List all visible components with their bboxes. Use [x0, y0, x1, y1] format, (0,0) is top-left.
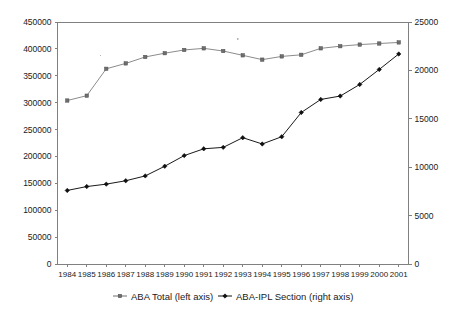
x-tick-label: 1987	[117, 270, 135, 279]
series-aba-ipl-markers	[65, 52, 401, 193]
right-tick-label: 10000	[415, 162, 439, 172]
data-point-marker	[104, 182, 108, 186]
plot-frame	[58, 22, 409, 265]
left-tick-label: 450000	[23, 17, 52, 27]
data-point-marker	[182, 153, 186, 157]
data-point-marker	[124, 62, 127, 65]
right-tick-label: 20000	[415, 65, 439, 75]
data-point-marker	[183, 48, 186, 51]
x-axis-ticks: 1984198519861987198819891990199119921993…	[58, 264, 408, 279]
data-point-marker	[163, 51, 166, 54]
data-point-marker	[260, 142, 264, 146]
data-point-marker	[105, 67, 108, 70]
data-point-marker	[378, 42, 381, 45]
series-aba-ipl-line	[67, 54, 399, 190]
data-point-marker	[261, 58, 264, 61]
x-tick-label: 1994	[253, 270, 271, 279]
chart-legend: ABA Total (left axis)ABA-IPL Section (ri…	[113, 291, 353, 302]
left-axis-ticks: 0500001000001500002000002500003000003500…	[23, 17, 57, 269]
data-point-marker	[222, 49, 225, 52]
legend-item-aba-total[interactable]: ABA Total (left axis)	[113, 291, 213, 302]
legend-marker	[118, 294, 121, 297]
x-tick-label: 1996	[292, 270, 310, 279]
legend-marker	[223, 294, 227, 298]
right-tick-label: 25000	[415, 17, 439, 27]
scan-artifacts	[100, 38, 239, 56]
data-point-marker	[85, 94, 88, 97]
data-point-marker	[241, 54, 244, 57]
data-point-marker	[66, 99, 69, 102]
series-polyline	[67, 42, 399, 100]
x-tick-label: 1995	[273, 270, 291, 279]
data-point-marker	[338, 94, 342, 98]
x-tick-label: 1993	[234, 270, 252, 279]
left-tick-label: 350000	[23, 71, 52, 81]
x-tick-label: 1998	[331, 270, 349, 279]
data-point-marker	[143, 174, 147, 178]
data-point-marker	[202, 147, 206, 151]
data-point-marker	[85, 184, 89, 188]
left-tick-label: 50000	[28, 232, 52, 242]
left-tick-label: 200000	[23, 151, 52, 161]
legend-label-text: ABA Total (left axis)	[131, 291, 213, 302]
right-axis-ticks: 0500010000150002000025000	[409, 17, 439, 269]
x-tick-label: 1984	[58, 270, 76, 279]
right-tick-label: 0	[415, 259, 420, 269]
x-tick-label: 1986	[97, 270, 115, 279]
data-point-marker	[280, 55, 283, 58]
left-tick-label: 250000	[23, 125, 52, 135]
left-tick-label: 150000	[23, 178, 52, 188]
data-point-marker	[202, 47, 205, 50]
left-tick-label: 0	[47, 259, 52, 269]
left-tick-label: 400000	[23, 44, 52, 54]
data-point-marker	[124, 179, 128, 183]
chart-container: 0500001000001500002000002500003000003500…	[0, 0, 459, 313]
data-point-marker	[221, 145, 225, 149]
x-tick-label: 1992	[214, 270, 232, 279]
right-tick-label: 5000	[415, 211, 434, 221]
data-point-marker	[339, 45, 342, 48]
data-point-marker	[241, 135, 245, 139]
left-tick-label: 100000	[23, 205, 52, 215]
data-point-marker	[358, 43, 361, 46]
x-tick-label: 1988	[136, 270, 154, 279]
legend-label-text: ABA-IPL Section (right axis)	[236, 291, 353, 302]
x-tick-label: 1990	[175, 270, 193, 279]
data-point-marker	[319, 47, 322, 50]
data-point-marker	[163, 164, 167, 168]
series-aba-total-markers	[66, 41, 401, 102]
data-point-marker	[397, 41, 400, 44]
x-tick-label: 1985	[78, 270, 96, 279]
data-point-marker	[65, 188, 69, 192]
x-tick-label: 2001	[390, 270, 408, 279]
right-tick-label: 15000	[415, 114, 439, 124]
data-point-marker	[144, 55, 147, 58]
x-tick-label: 2000	[370, 270, 388, 279]
x-tick-label: 1989	[156, 270, 174, 279]
x-tick-label: 1991	[195, 270, 213, 279]
legend-item-aba-ipl[interactable]: ABA-IPL Section (right axis)	[218, 291, 353, 302]
series-aba-total-line	[67, 42, 399, 100]
left-tick-label: 300000	[23, 98, 52, 108]
x-tick-label: 1997	[312, 270, 330, 279]
dual-axis-line-chart: 0500001000001500002000002500003000003500…	[0, 0, 459, 313]
x-tick-label: 1999	[351, 270, 369, 279]
series-polyline	[67, 54, 399, 190]
data-point-marker	[300, 53, 303, 56]
